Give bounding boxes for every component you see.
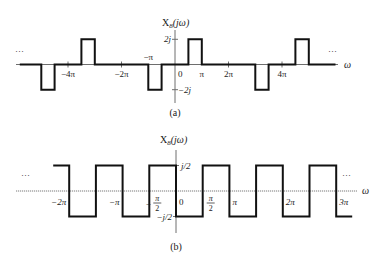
x-tick-label: 0 <box>179 197 184 207</box>
x-tick-label-fraction: −π2 <box>146 194 162 213</box>
x-tick-label: 2π <box>224 69 234 79</box>
x-tick-label: −π <box>109 197 120 207</box>
panel-a: −4π−2π−π0π2π4π2j−2j X8(jω) ω ··· ··· (a) <box>15 17 351 119</box>
y-axis-title: X8(jω) <box>162 17 190 30</box>
x-tick-label: 3π <box>338 197 349 207</box>
x-tick-label: −2π <box>51 197 67 207</box>
y-tick-label: j/2 <box>180 161 191 171</box>
ellipsis-left: ··· <box>21 170 30 180</box>
panel-b: −2π−π−π20π2π2π3πj/2−j/2 X8(jω) ω ··· ···… <box>16 134 369 253</box>
figure: −4π−2π−π0π2π4π2j−2j X8(jω) ω ··· ··· (a)… <box>0 0 387 256</box>
x-tick-label: −2π <box>114 69 129 79</box>
x-tick-label: 2π <box>286 197 296 207</box>
y-tick-label: −j/2 <box>156 212 172 222</box>
x-tick-label: 0 <box>178 69 183 79</box>
ellipsis-left: ··· <box>15 46 24 56</box>
ellipsis-right: ··· <box>342 170 351 180</box>
svg-text:π: π <box>155 194 160 203</box>
figure-svg: −4π−2π−π0π2π4π2j−2j X8(jω) ω ··· ··· (a)… <box>0 0 387 256</box>
x-tick-label-fraction: π2 <box>207 194 215 213</box>
x-tick-label: π <box>232 197 237 207</box>
caption-b: (b) <box>170 241 182 253</box>
x-tick-label: π <box>199 69 204 79</box>
ellipsis-right: ··· <box>328 46 337 56</box>
signal-trace <box>20 39 336 89</box>
y-axis-title: X8(jω) <box>160 134 188 147</box>
caption-a: (a) <box>169 107 180 119</box>
x-tick-label: −π <box>143 52 153 62</box>
svg-text:−: − <box>146 199 151 209</box>
svg-text:π: π <box>209 194 214 203</box>
y-tick-label: −2j <box>178 85 192 95</box>
svg-text:2: 2 <box>209 204 213 213</box>
x-axis-label: ω <box>362 185 369 196</box>
x-axis-label: ω <box>344 59 351 70</box>
x-tick-label: −4π <box>61 69 76 79</box>
x-tick-label: 4π <box>277 69 287 79</box>
y-tick-label: 2j <box>164 34 172 44</box>
